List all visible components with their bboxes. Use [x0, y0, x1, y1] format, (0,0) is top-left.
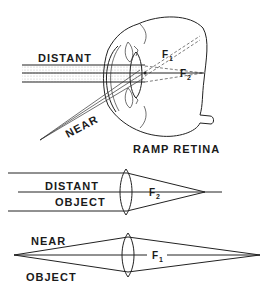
focal-ray-f2-a	[145, 66, 203, 73]
focal-ray-f2-b	[145, 73, 203, 82]
label-f1: F	[162, 49, 168, 60]
distant-object-lens-diagram: DISTANT OBJECT F 2	[8, 169, 222, 215]
label-near-object-2: OBJECT	[26, 271, 77, 283]
near-ray-3	[40, 78, 144, 140]
label-near-object-1: NEAR	[31, 235, 66, 247]
eye-cross-section: DISTANT NEAR F 1 F 2 RAMP RETINA	[22, 17, 220, 155]
label-focal-f1: F	[152, 250, 158, 261]
ramp-retina-diagram: DISTANT NEAR F 1 F 2 RAMP RETINA DISTANT…	[0, 0, 268, 284]
label-distant: DISTANT	[38, 52, 92, 64]
focal-ray-f1-a	[145, 36, 200, 72]
svg-text:2: 2	[187, 74, 191, 81]
label-distant-object-1: DISTANT	[45, 180, 99, 192]
svg-text:1: 1	[169, 55, 173, 62]
label-near: NEAR	[63, 113, 100, 140]
caption-ramp-retina: RAMP RETINA	[133, 143, 220, 155]
label-focal-f2: F	[149, 187, 155, 198]
label-f2: F	[180, 68, 186, 79]
svg-text:2: 2	[156, 193, 160, 200]
svg-text:1: 1	[159, 256, 163, 263]
near-ray-2	[40, 74, 142, 140]
near-object-lens-diagram: NEAR OBJECT F 1	[14, 233, 260, 283]
label-distant-object-2: OBJECT	[55, 196, 106, 208]
